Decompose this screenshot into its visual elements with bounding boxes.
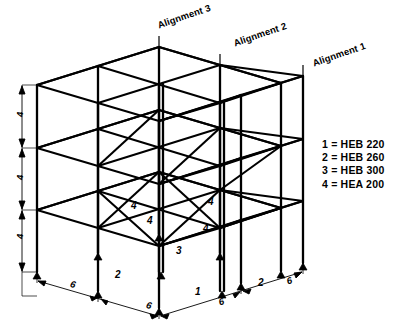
columns: [37, 47, 303, 308]
member-label-brace-d: 4: [203, 223, 209, 234]
pin-supports: [33, 234, 307, 315]
frame-geometry: [37, 47, 303, 308]
member-label-column-2-right: 2: [258, 277, 264, 288]
horizontal-dimension-lines: [37, 263, 303, 319]
member-label-brace-a: 4: [131, 200, 137, 211]
roof-grid: [37, 47, 303, 121]
member-label-brace-c: 4: [208, 196, 214, 207]
dim-storey-3: 4: [14, 112, 25, 117]
dim-storey-2: 4: [14, 175, 25, 180]
legend-row: 3 = HEB 300: [322, 164, 414, 177]
member-label-column-3: 3: [176, 245, 182, 256]
legend-row: 2 = HEB 260: [322, 151, 414, 164]
member-label-column-2-left: 2: [115, 269, 121, 280]
alignment-leaders: [159, 36, 303, 76]
legend-row: 4 = HEA 200: [322, 178, 414, 191]
member-label-brace-b: 4: [147, 215, 153, 226]
section-legend: 1 = HEB 220 2 = HEB 260 3 = HEB 300 4 = …: [322, 138, 414, 191]
member-label-column-1: 1: [195, 286, 201, 297]
diagonal-braces: [98, 110, 281, 246]
dim-storey-1: 4: [14, 234, 25, 239]
legend-row: 1 = HEB 220: [322, 138, 414, 151]
